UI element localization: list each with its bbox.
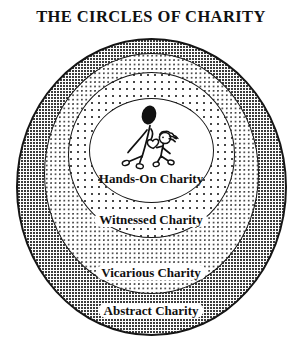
label-abstract-charity: Abstract Charity bbox=[99, 303, 204, 318]
child-foot-left bbox=[153, 161, 160, 167]
child-foot-right bbox=[167, 159, 174, 165]
label-witnessed-charity: Witnessed Charity bbox=[94, 212, 207, 227]
child-legs bbox=[158, 156, 169, 162]
circles-of-charity-page: THE CIRCLES OF CHARITY bbox=[0, 0, 302, 352]
circles-diagram: Hands-On Charity Witnessed Charity Vicar… bbox=[0, 0, 302, 352]
label-hands-on-charity: Hands-On Charity bbox=[94, 171, 208, 186]
adult-foot-left bbox=[122, 160, 130, 167]
adult-foot-right bbox=[136, 163, 144, 169]
label-vicarious-charity: Vicarious Charity bbox=[96, 265, 206, 280]
adult-right-arm bbox=[151, 129, 153, 141]
child-eye bbox=[162, 136, 164, 138]
adult-legs bbox=[129, 156, 142, 164]
adult-head bbox=[140, 104, 159, 126]
adult-helping-child-illustration bbox=[113, 100, 190, 172]
